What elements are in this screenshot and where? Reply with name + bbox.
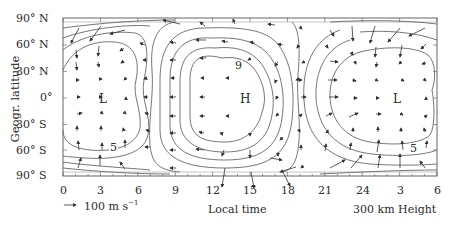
x-tick-label: 6 (434, 185, 441, 196)
chart-canvas (0, 0, 451, 230)
x-tick-label: 9 (172, 185, 179, 196)
scale-arrow-label: 100 m s−1 (84, 200, 138, 212)
y-tick-label: 60° S (16, 145, 47, 156)
x-axis-title: Local time (208, 204, 267, 215)
high-pressure-center-label: H (240, 93, 250, 105)
x-tick-label: 15 (243, 185, 257, 196)
contour-label: 5 (409, 143, 418, 154)
x-tick-label: 12 (206, 185, 220, 196)
x-tick-label: 0 (60, 185, 67, 196)
low-pressure-center-label: L (99, 93, 107, 105)
y-tick-label: 0° (40, 92, 53, 103)
x-tick-label: 21 (318, 185, 332, 196)
x-tick-label: 18 (281, 185, 295, 196)
y-axis-title: Geogr. latitude (8, 54, 22, 144)
height-annotation: 300 km Height (353, 204, 436, 215)
contour-label: 9 (234, 60, 243, 71)
y-tick-label: 90° N (16, 13, 49, 24)
y-tick-label: 90° S (16, 170, 47, 181)
x-tick-label: 6 (135, 185, 142, 196)
x-tick-label: 3 (97, 185, 104, 196)
x-tick-label: 24 (356, 185, 370, 196)
low-pressure-center-label: L (393, 93, 401, 105)
x-tick-label: 3 (397, 185, 404, 196)
y-tick-label: 60° N (16, 39, 49, 50)
contour-label: 5 (109, 142, 118, 153)
